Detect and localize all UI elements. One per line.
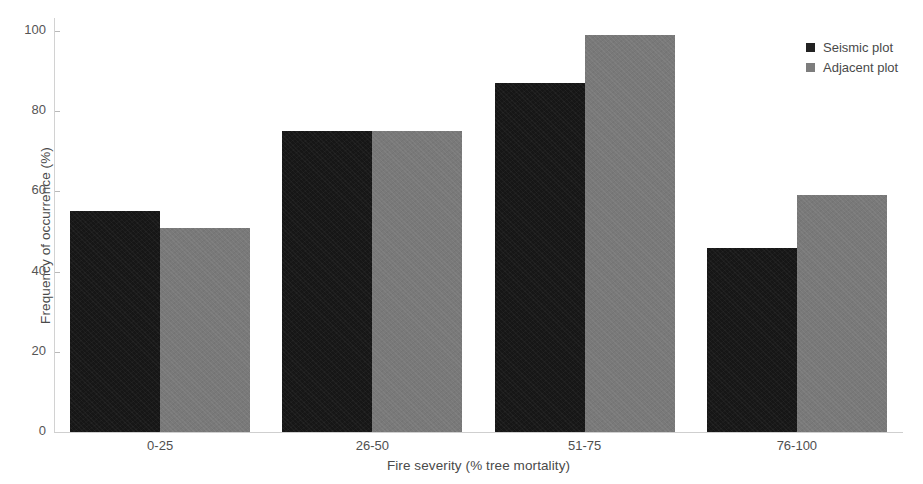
x-tick-label: 0-25: [100, 438, 220, 453]
bar-seismic-51-75: [495, 83, 585, 432]
bar-adjacent-26-50: [372, 131, 462, 432]
y-axis-title: Frequency of occurrence (%): [38, 86, 53, 386]
y-axis-line: [54, 18, 55, 432]
y-tick-mark: [55, 31, 60, 32]
bar-chart-figure: Frequency of occurrence (%) 020406080100…: [0, 0, 923, 484]
legend: Seismic plot Adjacent plot: [806, 38, 898, 78]
bar-adjacent-0-25: [160, 228, 250, 433]
bar-adjacent-76-100: [797, 195, 887, 432]
y-tick-mark: [55, 352, 60, 353]
y-tick-label: 40: [0, 263, 46, 278]
legend-item-adjacent-plot: Adjacent plot: [806, 58, 898, 76]
x-tick-label: 76-100: [737, 438, 857, 453]
x-axis-title: Fire severity (% tree mortality): [54, 458, 903, 473]
y-tick-mark: [55, 111, 60, 112]
bar-seismic-0-25: [70, 211, 160, 432]
y-tick-mark: [55, 191, 60, 192]
legend-swatch-icon-adjacent: [806, 63, 815, 72]
legend-item-seismic-plot: Seismic plot: [806, 38, 898, 56]
legend-label-adjacent: Adjacent plot: [823, 60, 898, 75]
x-tick-label: 26-50: [312, 438, 432, 453]
bar-seismic-26-50: [282, 131, 372, 432]
y-tick-mark: [55, 272, 60, 273]
x-tick-label: 51-75: [525, 438, 645, 453]
y-tick-label: 80: [0, 102, 46, 117]
y-tick-label: 60: [0, 182, 46, 197]
legend-swatch-icon-seismic: [806, 43, 815, 52]
y-tick-label: 100: [0, 22, 46, 37]
x-axis-line: [54, 432, 903, 433]
legend-label-seismic: Seismic plot: [823, 40, 893, 55]
y-tick-label: 0: [0, 423, 46, 438]
bar-seismic-76-100: [707, 248, 797, 432]
bar-adjacent-51-75: [585, 35, 675, 432]
y-tick-label: 20: [0, 343, 46, 358]
